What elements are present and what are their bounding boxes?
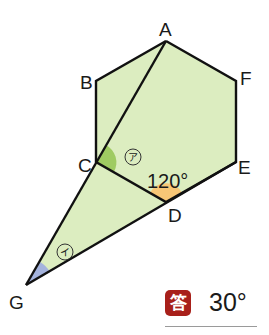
angle-i-mark: イ xyxy=(60,247,70,258)
vertex-label-a: A xyxy=(159,19,172,40)
vertex-label-d: D xyxy=(168,205,182,226)
angle-a-mark: ア xyxy=(128,152,138,163)
vertex-label-f: F xyxy=(240,68,252,89)
answer-badge: 答 xyxy=(165,290,191,316)
vertex-label-e: E xyxy=(238,157,251,178)
answer-value: 30° xyxy=(209,288,247,317)
vertex-label-c: C xyxy=(78,155,92,176)
vertex-label-b: B xyxy=(80,72,93,93)
answer-underline xyxy=(165,326,257,327)
answer-box: 答 30° xyxy=(165,288,265,328)
geometry-diagram: A B F C E D G 120° ア イ xyxy=(0,0,269,335)
vertex-label-g: G xyxy=(9,292,24,313)
angle-given-label: 120° xyxy=(147,170,188,192)
